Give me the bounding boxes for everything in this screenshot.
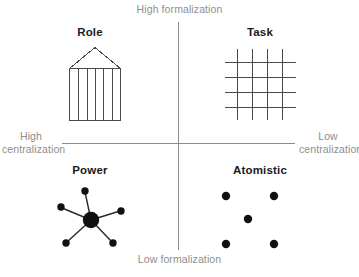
axis-label-low-formalization: Low formalization (0, 253, 359, 266)
quadrant-title-power: Power (55, 164, 125, 176)
vertical-axis-line (178, 22, 179, 250)
horizontal-axis-line (62, 143, 295, 144)
axis-label-high-formalization: High formalization (0, 3, 359, 16)
quadrant-title-role: Role (55, 26, 125, 38)
hub-spoke-icon (54, 182, 128, 252)
organizational-culture-matrix: High formalization Low formalization Hig… (0, 0, 359, 277)
scattered-dots-icon (216, 188, 294, 250)
quadrant-title-atomistic: Atomistic (212, 164, 308, 176)
quadrant-title-task: Task (225, 26, 295, 38)
grid-net-icon (224, 48, 296, 120)
axis-label-high-centralization: High centralization (2, 130, 60, 155)
temple-columns-icon (69, 46, 121, 122)
axis-label-low-centralization: Low centralization (299, 130, 357, 155)
